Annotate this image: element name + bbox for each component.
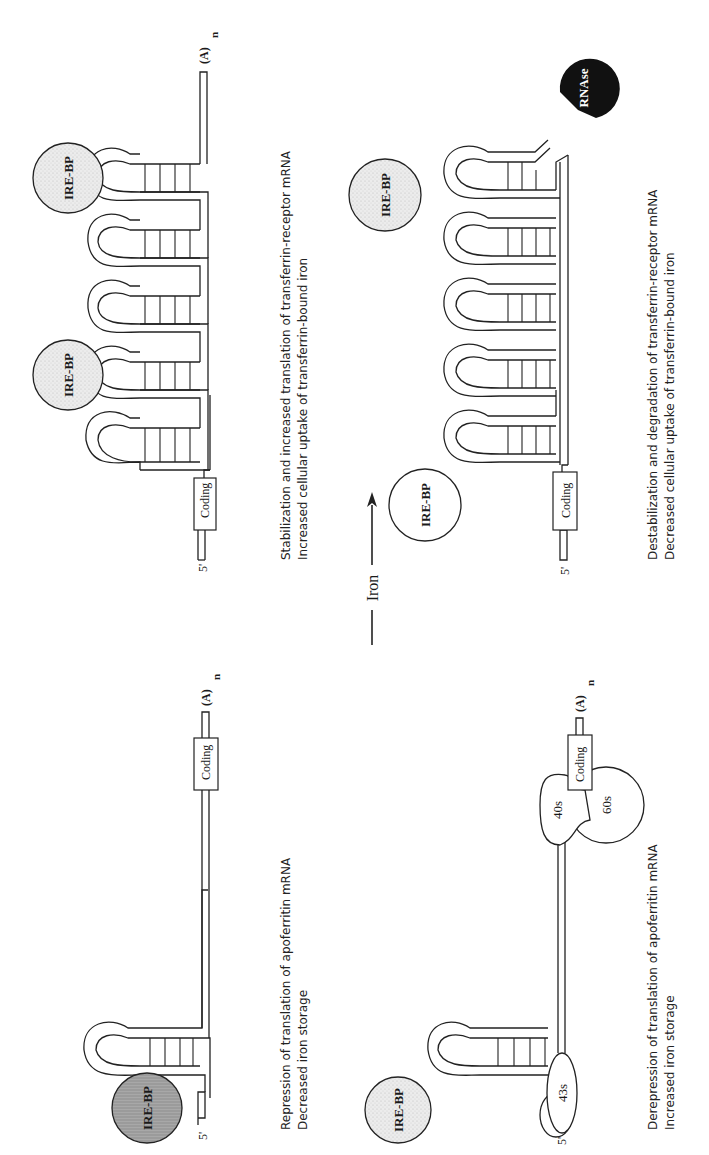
poly-a-subscript: n: [208, 32, 220, 38]
ire-bp-bound: IRE-BP: [112, 1073, 182, 1143]
poly-a-label: (A): [573, 695, 587, 712]
rnase-enzyme: RNAse: [560, 59, 620, 118]
coding-label: Coding: [559, 483, 573, 518]
ire-bp-label: IRE-BP: [61, 353, 76, 397]
caption-line-2: Decreased cellular uptake of transferrin…: [663, 252, 677, 560]
ire-bp-label: IRE-BP: [378, 173, 393, 217]
five-prime-label: 5': [558, 567, 572, 575]
ire-bp-free: IRE-BP: [365, 1077, 431, 1143]
panel-transferrin-receptor-high-iron: Coding: [349, 59, 677, 575]
ire-bp-label: IRE-BP: [418, 483, 433, 527]
panel-apoferritin-high-iron: 43s 60s 40s Coding (A) n IRE-BP 5' Derep…: [365, 680, 677, 1145]
ire-bp-label: IRE-BP: [140, 1086, 155, 1130]
ribosome-60s-label: 60s: [599, 796, 614, 814]
arrow-head-icon: [367, 492, 377, 507]
stem-loops: [444, 140, 568, 465]
caption-line-1: Stabilization and increased translation …: [279, 150, 293, 560]
coding-label: Coding: [199, 745, 213, 780]
rnase-label: RNAse: [576, 68, 591, 107]
iron-regulation-diagram: Coding: [0, 0, 709, 1155]
ire-bp-bound-2: IRE-BP: [33, 143, 103, 213]
caption-line-1: Destabilization and degradation of trans…: [646, 189, 660, 560]
ire-bp-free-1: IRE-BP: [349, 159, 421, 231]
poly-a-label: (A): [197, 47, 211, 64]
ire-bp-bound-1: IRE-BP: [33, 340, 103, 410]
caption-line-2: Increased iron storage: [663, 995, 677, 1130]
five-prime-label: 5': [196, 1132, 210, 1140]
caption-line-1: Repression of translation of apoferritin…: [279, 857, 293, 1130]
caption-line-2: Decreased iron storage: [296, 990, 310, 1130]
ribosome-43s-label: 43s: [555, 1084, 570, 1102]
poly-a-label: (A): [199, 689, 213, 706]
caption-line-2: Increased cellular uptake of transferrin…: [296, 258, 310, 560]
ire-bp-free-2: IRE-BP: [389, 469, 461, 541]
stem-loops: [86, 72, 210, 470]
five-prime-label: 5': [555, 1137, 569, 1145]
panel-apoferritin-low-iron: Coding IRE-BP 5' (A) n Repression of tra…: [84, 674, 310, 1143]
poly-a-subscript: n: [210, 674, 222, 680]
caption-line-1: Derepression of translation of apoferrit…: [646, 844, 660, 1130]
panel-transferrin-receptor-low-iron: Coding: [33, 32, 310, 572]
ribosome-40s-label: 40s: [550, 801, 565, 819]
coding-label: Coding: [573, 747, 587, 782]
ire-bp-label: IRE-BP: [391, 1088, 406, 1132]
coding-label: Coding: [198, 483, 212, 518]
ire-bp-label: IRE-BP: [61, 156, 76, 200]
arrow-label: Iron: [364, 575, 381, 602]
poly-a-subscript: n: [584, 680, 596, 686]
five-prime-label: 5': [196, 564, 210, 572]
iron-arrow[interactable]: Iron: [364, 492, 381, 645]
